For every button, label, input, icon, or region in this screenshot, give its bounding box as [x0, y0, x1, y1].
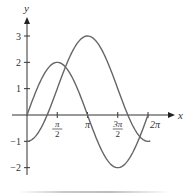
x-tick-label-denominator: 2: [116, 129, 121, 139]
y-tick-label: −2: [10, 162, 21, 173]
y-tick-label: 1: [16, 83, 21, 94]
ticks: [24, 36, 148, 168]
curves: [27, 36, 150, 168]
chart: yx321−1−2π2π3π22π: [0, 0, 186, 194]
x-tick-label-numerator: π: [55, 119, 60, 129]
x-axis-arrow: [168, 112, 175, 118]
y-tick-label: 3: [16, 31, 21, 42]
y-axis-arrow: [24, 17, 30, 24]
axes: [12, 17, 175, 175]
bottom-divider: [18, 191, 170, 193]
y-tick-label: −1: [10, 136, 21, 147]
x-tick-label-denominator: 2: [55, 129, 60, 139]
labels: yx321−1−2π2π3π22π: [10, 2, 183, 173]
y-axis-label: y: [23, 2, 29, 14]
x-tick-label-numerator: 3π: [112, 119, 123, 129]
x-tick-label: 2π: [150, 119, 161, 130]
y-tick-label: 2: [16, 57, 21, 68]
x-axis-label: x: [177, 109, 183, 121]
